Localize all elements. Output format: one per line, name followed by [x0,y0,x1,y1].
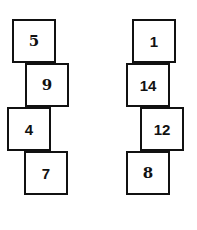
box-left-4: 7 [24,151,68,195]
box-left-2: 9 [25,63,69,107]
box-right-2: 14 [126,63,170,107]
box-right-3: 12 [140,107,184,151]
box-left-3: 4 [7,107,51,151]
box-right-1: 1 [132,19,176,63]
box-right-4: 8 [126,151,170,195]
box-left-1: 5 [12,19,56,63]
